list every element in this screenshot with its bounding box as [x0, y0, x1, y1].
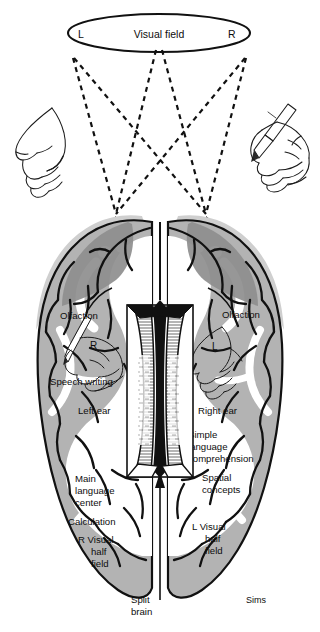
- label-olfaction-left: Olfaction: [60, 310, 98, 321]
- callosum-right-stipple: [168, 355, 180, 445]
- caption-split: Split: [131, 594, 150, 605]
- label-left-ear: Left ear: [78, 405, 111, 416]
- label-speech-writing: Speech writing: [50, 376, 113, 387]
- artist-signature: Sims: [246, 595, 266, 605]
- visual-field-left-marker: L: [78, 28, 84, 40]
- visual-field-group: L Visual field R: [68, 14, 250, 52]
- label-calculation: Calculation: [68, 516, 115, 527]
- label-olfaction-right: Olfaction: [222, 309, 260, 320]
- label-hand-marker-l: L: [212, 341, 218, 352]
- label-right-ear: Right ear: [198, 405, 238, 416]
- figure-canvas: L Visual field R: [0, 0, 320, 632]
- label-main-language-line3: center: [75, 497, 102, 508]
- split-brain-figure: L Visual field R: [0, 0, 320, 632]
- visual-field-right-marker: R: [228, 28, 236, 40]
- callosum-left-stipple: [138, 355, 150, 445]
- label-simple-language-line3: comprehension: [188, 453, 254, 464]
- label-simple-language-line2: language: [188, 441, 227, 452]
- label-hand-marker-r: R: [90, 340, 97, 351]
- label-spatial-concepts-line1: Spatial: [202, 472, 231, 483]
- label-visual-half-field-r-line3: field: [91, 558, 109, 569]
- visual-field-label: Visual field: [134, 28, 185, 40]
- label-visual-half-field-l-line1: L Visual: [192, 521, 226, 532]
- label-visual-half-field-r-line1: R Visual: [78, 534, 114, 545]
- caption-brain: brain: [131, 606, 152, 617]
- label-main-language-line1: Main: [75, 473, 96, 484]
- label-visual-half-field-l-line3: field: [205, 545, 223, 556]
- label-main-language-line2: language: [75, 485, 114, 496]
- label-visual-half-field-r-line2: half: [91, 546, 107, 557]
- label-spatial-concepts-line2: concepts: [202, 484, 241, 495]
- label-visual-half-field-l-line2: half: [205, 533, 221, 544]
